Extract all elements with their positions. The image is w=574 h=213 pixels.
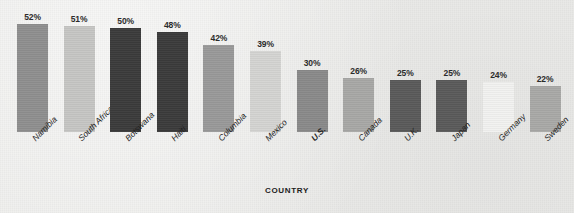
bar <box>110 28 141 132</box>
bar-group: 25%Japan <box>436 80 467 132</box>
x-axis-title: COUNTRY <box>0 186 574 195</box>
chart-root: 52%Namibia51%South Africa50%Botswana48%H… <box>0 0 574 213</box>
bar-value-label: 22% <box>537 74 554 84</box>
bar <box>17 24 48 132</box>
bar-group: 25%U.K. <box>390 80 421 132</box>
bar-group: 22%Sweden <box>530 86 561 132</box>
bar-value-label: 26% <box>350 66 367 76</box>
bar-value-label: 42% <box>211 33 228 43</box>
bar <box>250 51 281 132</box>
bar-chart-plot-area: 52%Namibia51%South Africa50%Botswana48%H… <box>0 0 574 213</box>
bar-group: 50%Botswana <box>110 28 141 132</box>
bar-group: 30%U.S. <box>297 70 328 132</box>
bar-value-label: 51% <box>71 14 88 24</box>
bar-value-label: 39% <box>257 39 274 49</box>
bar-group: 39%Mexico <box>250 51 281 132</box>
bar-group: 52%Namibia <box>17 24 48 132</box>
bar <box>390 80 421 132</box>
bar-group: 24%Germany <box>483 82 514 132</box>
bar-value-label: 52% <box>24 12 41 22</box>
bar-value-label: 50% <box>117 16 134 26</box>
bar-value-label: 25% <box>397 68 414 78</box>
bar <box>64 26 95 132</box>
bar-value-label: 48% <box>164 20 181 30</box>
bar-value-label: 25% <box>444 68 461 78</box>
bar-group: 48%Haiti <box>157 32 188 132</box>
bar-group: 42%Columbia <box>203 45 234 132</box>
bar-value-label: 24% <box>490 70 507 80</box>
bar <box>203 45 234 132</box>
bar-value-label: 30% <box>304 58 321 68</box>
bar-group: 26%Canada <box>343 78 374 132</box>
bar <box>157 32 188 132</box>
bar-group: 51%South Africa <box>64 26 95 132</box>
bar <box>297 70 328 132</box>
